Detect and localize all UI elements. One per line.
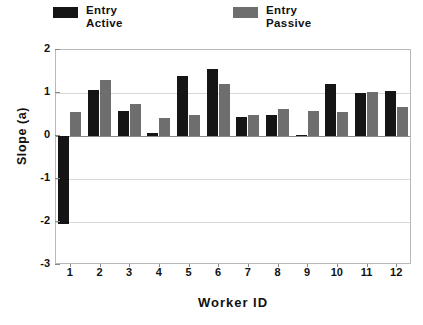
- y-tick-mark: [55, 135, 60, 136]
- legend-label-entry-active: Entry Active: [86, 4, 123, 30]
- y-tick-mark: [55, 264, 60, 265]
- legend-label-entry-passive-line2: Passive: [266, 17, 312, 30]
- y-tick-label: -1: [26, 171, 50, 183]
- bar-entry-passive-worker-12: [397, 107, 408, 136]
- gridline: [56, 179, 410, 180]
- x-tick-label: 12: [381, 266, 411, 278]
- bar-entry-active-worker-1: [58, 136, 69, 224]
- x-tick-mark: [129, 264, 130, 267]
- legend-item-entry-active: Entry Active: [53, 4, 123, 30]
- gridline: [56, 222, 410, 223]
- y-tick-label: 0: [26, 128, 50, 140]
- bar-entry-active-worker-3: [118, 111, 129, 136]
- bar-entry-active-worker-12: [385, 91, 396, 136]
- chart-legend: Entry Active Entry Passive: [0, 0, 423, 44]
- legend-item-entry-passive: Entry Passive: [233, 4, 312, 30]
- bar-entry-passive-worker-6: [219, 84, 230, 136]
- bar-entry-active-worker-6: [207, 69, 218, 136]
- x-tick-mark: [396, 264, 397, 267]
- x-tick-label: 5: [174, 266, 204, 278]
- x-tick-label: 8: [263, 266, 293, 278]
- bar-entry-active-worker-8: [266, 115, 277, 136]
- legend-label-entry-active-line2: Active: [86, 17, 123, 30]
- legend-label-entry-passive: Entry Passive: [266, 4, 312, 30]
- bar-entry-passive-worker-5: [189, 115, 200, 137]
- y-tick-mark: [55, 221, 60, 222]
- y-tick-mark: [55, 49, 60, 50]
- x-tick-label: 1: [55, 266, 85, 278]
- x-tick-mark: [278, 264, 279, 267]
- x-tick-mark: [307, 264, 308, 267]
- x-tick-mark: [159, 264, 160, 267]
- bar-entry-passive-worker-7: [248, 115, 259, 136]
- x-tick-label: 11: [352, 266, 382, 278]
- chart-figure: Entry Active Entry Passive Slope (a) 210…: [0, 0, 423, 325]
- x-tick-mark: [70, 264, 71, 267]
- x-tick-label: 2: [85, 266, 115, 278]
- bar-entry-passive-worker-4: [159, 118, 170, 136]
- bar-entry-active-worker-4: [147, 133, 158, 136]
- bar-entry-passive-worker-11: [367, 92, 378, 136]
- x-axis-title: Worker ID: [55, 295, 411, 310]
- x-tick-mark: [100, 264, 101, 267]
- x-tick-mark: [337, 264, 338, 267]
- y-tick-label: 1: [26, 85, 50, 97]
- bar-entry-passive-worker-3: [130, 104, 141, 136]
- x-tick-label: 4: [144, 266, 174, 278]
- y-axis-ticks: 210-1-2-3: [26, 49, 50, 264]
- legend-swatch-entry-passive: [233, 7, 258, 18]
- bar-entry-passive-worker-10: [337, 112, 348, 136]
- bar-entry-passive-worker-1: [70, 112, 81, 136]
- x-tick-label: 7: [233, 266, 263, 278]
- legend-label-entry-passive-line1: Entry: [266, 4, 312, 17]
- y-tick-mark: [55, 178, 60, 179]
- x-tick-mark: [218, 264, 219, 267]
- bar-entry-active-worker-10: [325, 84, 336, 136]
- bar-entry-passive-worker-9: [308, 111, 319, 136]
- plot-area: [55, 49, 411, 264]
- bar-entry-active-worker-11: [355, 93, 366, 136]
- bar-entry-active-worker-9: [296, 135, 307, 136]
- y-tick-label: 2: [26, 42, 50, 54]
- bar-entry-active-worker-2: [88, 90, 99, 136]
- legend-label-entry-active-line1: Entry: [86, 4, 123, 17]
- y-tick-label: -3: [26, 257, 50, 269]
- legend-swatch-entry-active: [53, 7, 78, 18]
- bar-entry-passive-worker-2: [100, 80, 111, 136]
- bar-entry-active-worker-7: [236, 117, 247, 136]
- x-tick-mark: [367, 264, 368, 267]
- zero-baseline: [56, 136, 410, 137]
- x-tick-label: 3: [114, 266, 144, 278]
- x-axis-ticks: 123456789101112: [55, 266, 411, 282]
- x-tick-label: 9: [292, 266, 322, 278]
- bar-entry-active-worker-5: [177, 76, 188, 136]
- x-tick-label: 10: [322, 266, 352, 278]
- y-tick-mark: [55, 92, 60, 93]
- x-tick-label: 6: [203, 266, 233, 278]
- y-tick-label: -2: [26, 214, 50, 226]
- bar-entry-passive-worker-8: [278, 109, 289, 136]
- x-tick-mark: [189, 264, 190, 267]
- x-tick-mark: [248, 264, 249, 267]
